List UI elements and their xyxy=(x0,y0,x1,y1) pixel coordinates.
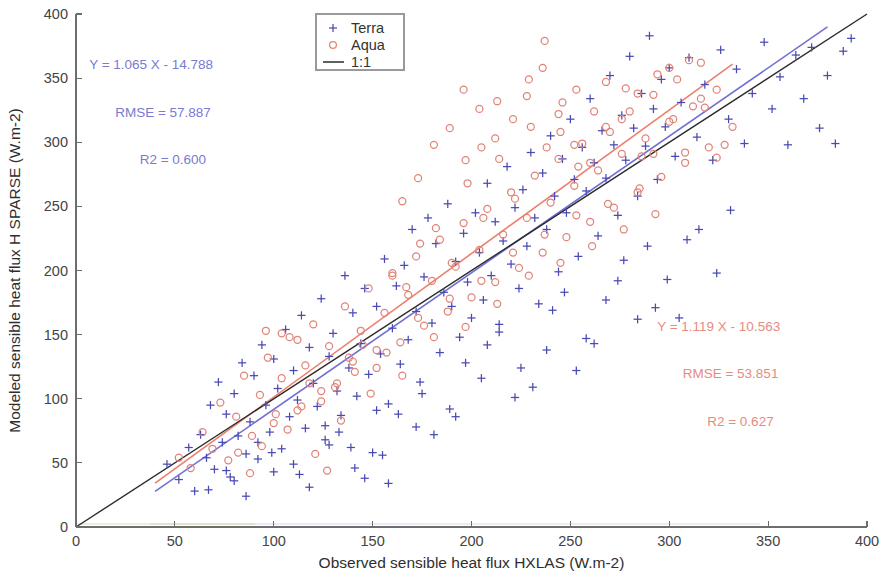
point-aqua xyxy=(258,443,265,450)
point-terra xyxy=(191,487,199,495)
point-terra xyxy=(547,132,555,140)
point-aqua xyxy=(421,322,428,329)
point-aqua xyxy=(298,403,305,410)
point-terra xyxy=(317,295,325,303)
point-terra xyxy=(420,273,428,281)
point-terra xyxy=(329,329,337,337)
point-terra xyxy=(365,370,373,378)
point-terra xyxy=(527,148,535,156)
point-terra xyxy=(495,320,503,328)
point-aqua xyxy=(595,167,602,174)
y-tick-label: 300 xyxy=(44,134,68,150)
point-terra xyxy=(586,95,594,103)
point-terra xyxy=(230,390,238,398)
point-terra xyxy=(254,455,262,463)
point-terra xyxy=(222,410,230,418)
legend-label-aqua: Aqua xyxy=(351,37,386,53)
point-aqua xyxy=(432,225,439,232)
point-terra xyxy=(242,450,250,458)
point-terra xyxy=(268,449,276,457)
point-aqua xyxy=(446,125,453,132)
point-aqua xyxy=(430,334,437,341)
annotation-aqua-rmse: RMSE = 53.851 xyxy=(683,366,779,381)
point-aqua xyxy=(531,172,538,179)
point-terra xyxy=(341,272,349,280)
point-aqua xyxy=(508,189,515,196)
point-aqua xyxy=(478,277,485,284)
point-terra xyxy=(529,383,537,391)
point-terra xyxy=(230,477,238,485)
point-terra xyxy=(297,311,305,319)
x-tick-label: 400 xyxy=(855,533,879,549)
point-aqua xyxy=(618,150,625,157)
point-terra xyxy=(163,460,171,468)
fit-lines-group xyxy=(76,14,867,527)
point-aqua xyxy=(235,449,242,456)
point-aqua xyxy=(430,141,437,148)
y-tick-label: 200 xyxy=(44,263,68,279)
x-tick-label: 0 xyxy=(72,533,80,549)
point-aqua xyxy=(626,108,633,115)
x-tick-label: 100 xyxy=(262,533,286,549)
point-terra xyxy=(620,256,628,264)
data-points-group xyxy=(163,32,855,501)
point-terra xyxy=(278,445,286,453)
point-terra xyxy=(671,152,679,160)
point-terra xyxy=(436,348,444,356)
y-tick-label: 250 xyxy=(44,198,68,214)
point-terra xyxy=(543,346,551,354)
point-terra xyxy=(412,423,420,431)
point-aqua xyxy=(397,339,404,346)
point-aqua xyxy=(573,86,580,93)
point-terra xyxy=(479,296,487,304)
point-aqua xyxy=(701,104,708,111)
point-terra xyxy=(372,406,380,414)
plot-svg: 0501001502002503003504000501001502002503… xyxy=(0,0,883,575)
point-aqua xyxy=(587,218,594,225)
point-terra xyxy=(448,302,456,310)
point-aqua xyxy=(539,64,546,71)
x-tick-label: 250 xyxy=(558,533,582,549)
point-aqua xyxy=(480,214,487,221)
point-terra xyxy=(325,441,333,449)
point-terra xyxy=(461,359,469,367)
point-terra xyxy=(602,296,610,304)
point-terra xyxy=(266,428,274,436)
y-tick-label: 0 xyxy=(60,519,68,535)
point-terra xyxy=(539,169,547,177)
point-aqua xyxy=(573,212,580,219)
point-aqua xyxy=(512,195,519,202)
point-terra xyxy=(380,255,388,263)
unity-line xyxy=(76,14,867,527)
point-aqua xyxy=(436,236,443,243)
point-terra xyxy=(477,374,485,382)
point-aqua xyxy=(555,111,562,118)
point-terra xyxy=(614,277,622,285)
point-terra xyxy=(839,47,847,55)
annotations-group: Y = 1.065 X - 14.788RMSE = 57.887R2 = 0.… xyxy=(89,57,780,429)
point-aqua xyxy=(310,321,317,328)
point-aqua xyxy=(294,407,301,414)
point-aqua xyxy=(492,279,499,286)
point-terra xyxy=(467,314,475,322)
point-terra xyxy=(713,269,721,277)
point-terra xyxy=(351,464,359,472)
point-terra xyxy=(548,306,556,314)
legend: TerraAqua1:1 xyxy=(316,14,404,70)
point-aqua xyxy=(341,303,348,310)
point-terra xyxy=(626,52,634,60)
point-aqua xyxy=(318,398,325,405)
point-aqua xyxy=(543,144,550,151)
point-terra xyxy=(258,341,266,349)
point-terra xyxy=(404,336,412,344)
point-terra xyxy=(384,479,392,487)
point-terra xyxy=(372,302,380,310)
point-aqua xyxy=(478,144,485,151)
point-aqua xyxy=(682,149,689,156)
y-tick-label: 400 xyxy=(44,6,68,22)
point-aqua xyxy=(705,144,712,151)
annotation-aqua-r2: R2 = 0.627 xyxy=(707,414,773,429)
point-aqua xyxy=(539,249,546,256)
point-terra xyxy=(353,392,361,400)
point-terra xyxy=(503,163,511,171)
